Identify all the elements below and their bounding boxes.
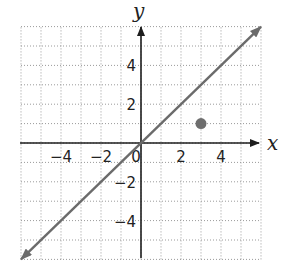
y-tick-label: 4 xyxy=(126,57,136,75)
x-tick-label: −4 xyxy=(50,148,72,166)
x-tick-label: 2 xyxy=(176,148,186,166)
data-point xyxy=(196,118,207,129)
coordinate-plane: −4−202442−2−4 x y xyxy=(0,0,291,268)
x-tick-label: −2 xyxy=(90,148,112,166)
y-tick-label: −2 xyxy=(114,174,136,192)
x-tick-label: 4 xyxy=(216,148,226,166)
y-tick-label: 2 xyxy=(126,96,136,114)
x-axis-label: x xyxy=(267,131,278,155)
y-axis-label: y xyxy=(132,0,145,23)
y-tick-label: −4 xyxy=(114,213,136,231)
